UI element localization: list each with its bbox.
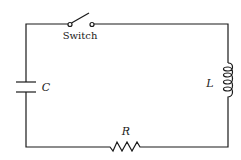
inductor (224, 63, 233, 103)
switch-terminal-right (90, 23, 94, 27)
resistor-label: R (121, 125, 130, 138)
switch-label: Switch (63, 30, 98, 41)
switch (68, 13, 94, 27)
wire-top-right (94, 24, 228, 63)
inductor-label: L (205, 77, 213, 90)
resistor (108, 142, 143, 151)
wire-right-bottom (143, 103, 228, 147)
capacitor (16, 82, 36, 92)
switch-blade (72, 13, 90, 23)
switch-terminal-left (68, 23, 72, 27)
rlc-circuit-diagram: Switch L R C (0, 0, 241, 160)
wire-bottom-left (26, 92, 108, 147)
capacitor-label: C (42, 81, 51, 94)
